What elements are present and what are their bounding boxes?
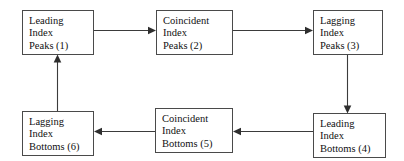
edge-leading-peaks-to-coincident-peaks xyxy=(94,27,156,35)
node-coincident-index-bottoms[interactable]: Coincident Index Bottoms (5) xyxy=(155,108,233,153)
node-line: Lagging xyxy=(29,116,93,128)
node-line: Bottoms (5) xyxy=(162,138,232,150)
node-line: Index xyxy=(162,125,232,137)
node-line: Lagging xyxy=(320,15,382,27)
node-coincident-index-peaks[interactable]: Coincident Index Peaks (2) xyxy=(156,10,233,55)
node-lagging-index-peaks[interactable]: Lagging Index Peaks (3) xyxy=(313,10,383,55)
edge-leading-bottoms-to-coincident-bottoms xyxy=(233,128,313,136)
node-line: Index xyxy=(320,27,382,39)
node-line: Coincident xyxy=(163,15,232,27)
node-line: Leading xyxy=(320,118,385,130)
edge-coincident-bottoms-to-lagging-bottoms xyxy=(94,128,155,136)
node-line: Bottoms (6) xyxy=(29,141,93,153)
node-line: Index xyxy=(29,27,93,39)
node-line: Peaks (2) xyxy=(163,40,232,52)
node-leading-index-peaks[interactable]: Leading Index Peaks (1) xyxy=(22,10,94,55)
edge-coincident-peaks-to-lagging-peaks xyxy=(233,27,313,35)
edge-lagging-bottoms-to-leading-peaks xyxy=(54,55,62,112)
edge-lagging-peaks-to-leading-bottoms xyxy=(344,55,352,114)
cycle-flowchart: Leading Index Peaks (1) Coincident Index… xyxy=(0,0,404,161)
node-line: Index xyxy=(29,128,93,140)
node-line: Peaks (3) xyxy=(320,40,382,52)
node-lagging-index-bottoms[interactable]: Lagging Index Bottoms (6) xyxy=(22,111,94,156)
node-line: Bottoms (4) xyxy=(320,143,385,155)
node-leading-index-bottoms[interactable]: Leading Index Bottoms (4) xyxy=(313,113,386,158)
node-line: Peaks (1) xyxy=(29,40,93,52)
node-line: Index xyxy=(320,130,385,142)
node-line: Index xyxy=(163,27,232,39)
node-line: Coincident xyxy=(162,113,232,125)
node-line: Leading xyxy=(29,15,93,27)
